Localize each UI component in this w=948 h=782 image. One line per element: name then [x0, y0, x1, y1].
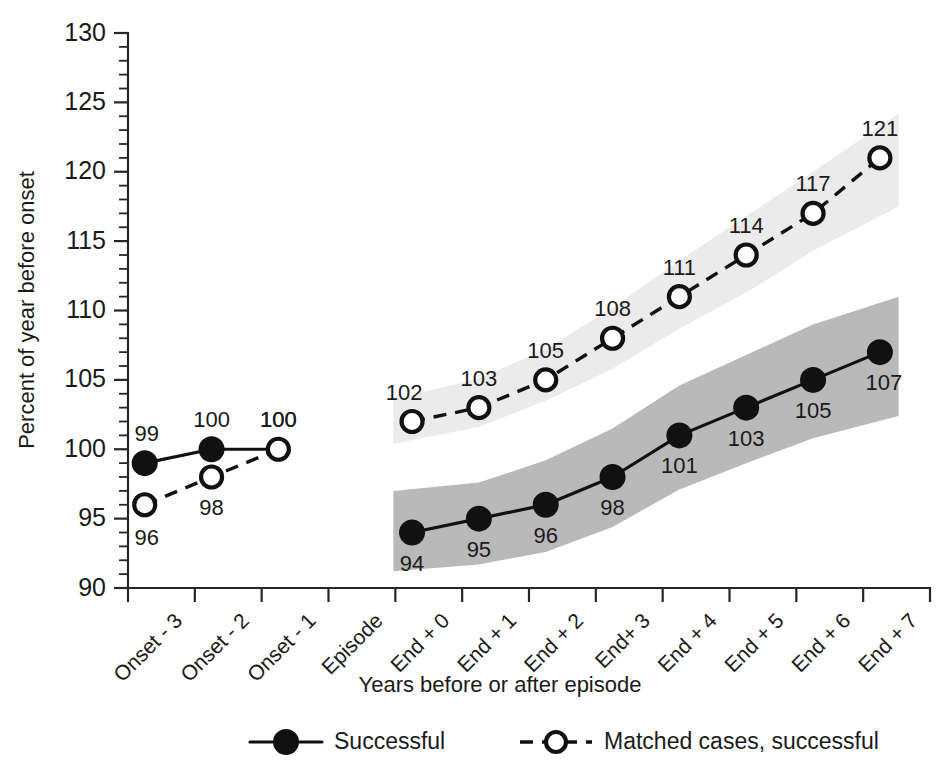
- legend-label: Matched cases, successful: [604, 728, 879, 754]
- data-point-marker: [734, 396, 758, 420]
- legend-label: Successful: [334, 728, 445, 754]
- chart-figure: 9095100105110115120125130 Onset - 3Onset…: [0, 0, 948, 782]
- legend-marker-sample: [274, 730, 298, 754]
- y-axis-title: Percent of year before onset: [14, 171, 39, 449]
- data-point-marker: [402, 411, 423, 432]
- data-point-marker: [736, 245, 757, 266]
- data-point-label: 99: [134, 421, 158, 446]
- data-point-marker: [468, 397, 489, 418]
- legend-item-successful[interactable]: Successful: [250, 728, 445, 754]
- data-point-label: 95: [467, 537, 491, 562]
- x-tick-label: End + 1: [453, 609, 521, 677]
- data-point-marker: [134, 494, 155, 515]
- data-point-marker: [133, 451, 157, 475]
- y-tick-label: 90: [78, 573, 106, 601]
- data-point-marker: [602, 328, 623, 349]
- x-tick-label: Onset - 1: [243, 609, 320, 686]
- x-tick-label: Onset - 2: [176, 609, 253, 686]
- legend-marker-sample: [546, 732, 566, 752]
- x-tick-label: End + 7: [854, 609, 922, 677]
- data-point-label: 108: [594, 296, 631, 321]
- data-point-label: 96: [533, 523, 557, 548]
- x-tick-label: End + 0: [386, 609, 454, 677]
- data-point-marker: [535, 369, 556, 390]
- y-axis-tick-labels: 9095100105110115120125130: [64, 18, 106, 601]
- data-point-label: 107: [866, 370, 903, 395]
- data-point-marker: [467, 507, 491, 531]
- x-tick-label: Onset - 3: [109, 609, 186, 686]
- data-point-label: 105: [795, 398, 832, 423]
- data-point-label: 103: [461, 366, 498, 391]
- data-point-marker: [669, 286, 690, 307]
- data-point-label: 111: [663, 255, 696, 280]
- data-point-label: 114: [729, 213, 764, 238]
- data-point-label: 98: [199, 495, 223, 520]
- data-point-marker: [869, 147, 890, 168]
- data-point-marker: [268, 439, 289, 460]
- data-point-marker: [667, 423, 691, 447]
- y-tick-label: 130: [64, 18, 106, 46]
- x-tick-label: End + 5: [720, 609, 788, 677]
- y-tick-label: 115: [66, 226, 106, 254]
- data-point-label: 121: [862, 116, 899, 141]
- data-point-label: 100: [260, 407, 297, 432]
- data-point-label: 103: [728, 426, 765, 451]
- line-chart: 9095100105110115120125130 Onset - 3Onset…: [0, 0, 948, 782]
- data-point-label: 100: [193, 407, 230, 432]
- x-tick-label: Episode: [317, 609, 387, 679]
- y-tick-label: 110: [66, 295, 106, 323]
- data-point-label: 117: [796, 171, 831, 196]
- chart-legend: SuccessfulMatched cases, successful: [250, 728, 879, 754]
- data-point-marker: [201, 467, 222, 488]
- y-tick-label: 120: [64, 156, 106, 184]
- x-axis-title: Years before or after episode: [359, 672, 642, 697]
- legend-item-matched-cases[interactable]: Matched cases, successful: [520, 728, 879, 754]
- data-point-marker: [801, 368, 825, 392]
- data-point-label: 98: [600, 495, 624, 520]
- data-point-marker: [803, 203, 824, 224]
- data-point-label: 102: [386, 380, 423, 405]
- data-point-label: 96: [134, 525, 158, 550]
- data-point-label: 105: [527, 338, 564, 363]
- y-tick-label: 95: [78, 503, 106, 531]
- data-point-marker: [868, 340, 892, 364]
- x-tick-label: End + 2: [519, 609, 587, 677]
- x-tick-label: End + 4: [653, 608, 721, 676]
- data-point-marker: [601, 465, 625, 489]
- y-tick-label: 125: [64, 87, 106, 115]
- data-point-label: 101: [661, 453, 698, 478]
- data-point-marker: [534, 493, 558, 517]
- y-tick-label: 100: [64, 434, 106, 462]
- x-tick-label: End + 6: [787, 609, 855, 677]
- y-tick-label: 105: [64, 364, 106, 392]
- data-point-marker: [200, 437, 224, 461]
- data-point-label: 94: [400, 551, 424, 576]
- data-point-marker: [400, 521, 424, 545]
- x-tick-label: End+ 3: [590, 609, 654, 673]
